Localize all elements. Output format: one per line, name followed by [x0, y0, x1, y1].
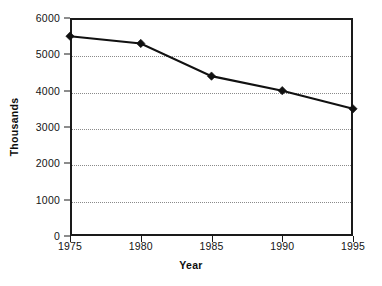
data-point-marker: [349, 105, 357, 113]
series-markers: [66, 32, 357, 113]
data-point-marker: [207, 72, 215, 80]
line-chart: 0100020003000400050006000 19751980198519…: [0, 0, 382, 286]
y-axis-title: Thousands: [8, 98, 20, 157]
data-point-marker: [278, 86, 286, 94]
x-axis-title: Year: [0, 259, 382, 271]
data-point-marker: [66, 32, 74, 40]
data-series: [0, 0, 382, 286]
data-point-marker: [137, 39, 145, 47]
